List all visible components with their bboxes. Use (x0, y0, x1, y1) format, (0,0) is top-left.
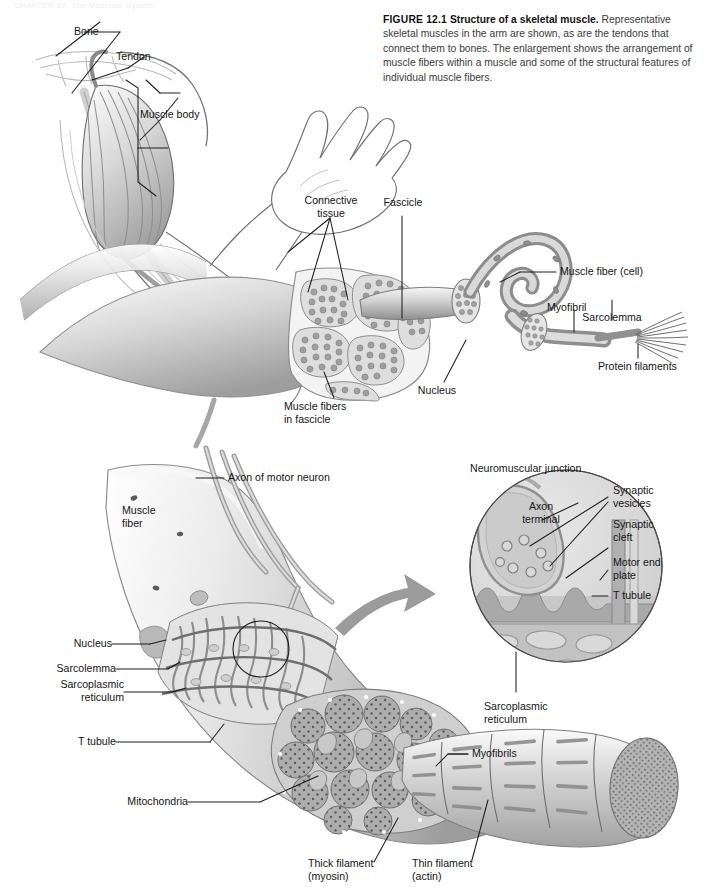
label-muscle-fiber-cell: Muscle fiber (cell) (560, 265, 643, 277)
running-head: CHAPTER 12 The Muscular System (14, 1, 154, 10)
figure-number: FIGURE 12.1 (383, 14, 447, 25)
label-sarcolemma-fiber: Sarcolemma (8, 662, 116, 674)
label-t-tubule-inset: T tubule (613, 589, 651, 601)
label-myofibrils: Myofibrils (472, 747, 517, 759)
label-synaptic-cleft: Synaptic cleft (613, 518, 654, 544)
label-nucleus-fiber: Nucleus (8, 637, 112, 649)
label-synaptic-vesicles: Synaptic vesicles (613, 484, 654, 510)
label-sarcoplasmic-reticulum-fiber: Sarcoplasmic reticulum (8, 678, 124, 704)
label-thin-filament: Thin filament (actin) (412, 857, 473, 883)
label-muscle-fiber: Muscle fiber (122, 504, 156, 530)
label-connective-tissue: Connective tissue (300, 194, 362, 219)
label-bone: Bone (74, 25, 99, 37)
label-mitochondria: Mitochondria (88, 795, 188, 807)
label-muscle-body: Muscle body (140, 108, 199, 120)
label-axon-of-motor-neuron: Axon of motor neuron (228, 471, 330, 483)
label-sarcoplasmic-reticulum-inset: Sarcoplasmic reticulum (484, 700, 548, 726)
magnify-arrow (335, 574, 436, 636)
label-nucleus: Nucleus (408, 384, 466, 396)
figure-illustration (0, 0, 712, 888)
label-neuromuscular-junction: Neuromuscular junction (470, 462, 581, 474)
label-t-tubule-fiber: T tubule (8, 735, 116, 747)
label-thick-filament: Thick filament (myosin) (308, 857, 373, 883)
label-fascicle: Fascicle (374, 196, 432, 208)
label-protein-filaments: Protein filaments (598, 360, 677, 372)
label-sarcolemma: Sarcolemma (572, 311, 652, 323)
label-tendon: Tendon (116, 50, 151, 62)
figure-title: Structure of a skeletal muscle. (450, 14, 599, 25)
label-axon-terminal: Axon terminal (512, 500, 570, 526)
label-motor-end-plate: Motor end plate (613, 556, 661, 582)
label-muscle-fibers-in-fascicle: Muscle fibers in fascicle (284, 400, 346, 425)
figure-caption: FIGURE 12.1 Structure of a skeletal musc… (383, 13, 705, 85)
